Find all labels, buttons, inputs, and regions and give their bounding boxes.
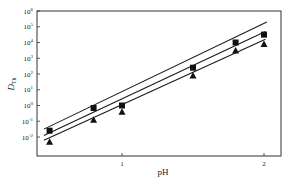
y-axis-title: DTh	[6, 77, 17, 91]
y-tick-label: 10-2	[22, 133, 34, 142]
y-tick-label: 105	[24, 22, 34, 31]
square-marker	[119, 103, 125, 109]
y-tick-label: 104	[24, 38, 34, 47]
square-marker	[91, 105, 97, 111]
square-marker	[261, 32, 267, 38]
triangle-marker	[119, 108, 126, 115]
ph-dth-chart: 10610510410310210110010-110-2 12 pH DTh	[0, 0, 285, 183]
data-points	[46, 32, 267, 145]
y-tick-label: 101	[24, 85, 34, 94]
y-tick-label: 102	[24, 70, 34, 79]
y-tick-label: 10-1	[22, 117, 34, 126]
y-tick-label: 103	[24, 54, 34, 63]
x-tick-label: 1	[120, 160, 124, 168]
fit-top	[44, 22, 267, 129]
fit-middle	[44, 31, 266, 135]
square-marker	[190, 65, 196, 71]
square-marker	[233, 40, 239, 46]
y-axis: 10610510410310210110010-110-2	[22, 7, 40, 142]
x-axis: 12	[120, 153, 266, 168]
square-marker	[47, 128, 53, 134]
triangle-marker	[232, 47, 239, 54]
triangle-marker	[90, 116, 97, 123]
y-tick-label: 106	[24, 7, 34, 16]
x-tick-label: 2	[262, 160, 266, 168]
y-tick-label: 100	[24, 101, 34, 110]
fit-bottom	[44, 39, 266, 140]
x-axis-title: pH	[158, 167, 170, 177]
